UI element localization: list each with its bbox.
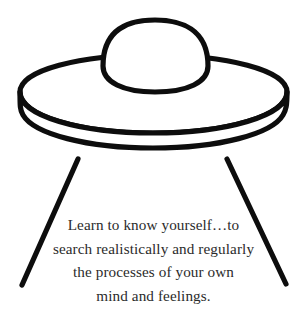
caption-line-1: Learn to know yourself…to [0, 213, 307, 237]
caption-line-4: mind and feelings. [0, 284, 307, 308]
caption-text-block: Learn to know yourself…to search realist… [0, 213, 307, 307]
illustration-canvas: Learn to know yourself…to search realist… [0, 0, 307, 325]
saucer-dome [103, 20, 208, 92]
caption-line-2: search realistically and regularly [0, 237, 307, 261]
caption-line-3: the processes of your own [0, 260, 307, 284]
